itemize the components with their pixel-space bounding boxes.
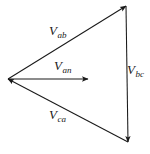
vector-vca-line — [8, 79, 128, 142]
vector-symbol-vbc: V — [127, 62, 135, 77]
phasor-diagram-canvas — [0, 0, 150, 154]
vector-label-vab: Vab — [49, 24, 66, 37]
vector-subscript-van: an — [62, 65, 71, 75]
vector-symbol-vca: V — [49, 107, 57, 122]
vector-symbol-vab: V — [49, 23, 57, 38]
vector-label-vca: Vca — [49, 108, 65, 121]
vector-label-vbc: Vbc — [127, 63, 143, 76]
vector-label-van: Van — [54, 59, 71, 72]
vector-subscript-vab: ab — [57, 30, 66, 40]
vector-subscript-vbc: bc — [135, 69, 144, 79]
phasor-diagram-figure: Vab Van Vca Vbc — [0, 0, 150, 154]
vector-symbol-van: V — [54, 58, 62, 73]
vector-subscript-vca: ca — [57, 114, 66, 124]
